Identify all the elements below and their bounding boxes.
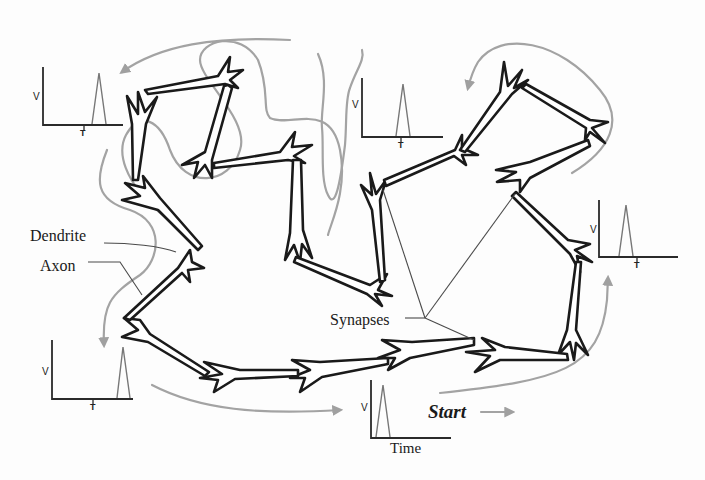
spike-plot-bottom-left-t-label: T	[90, 403, 96, 412]
spike-plot-right-t-label: T	[634, 261, 640, 270]
spike-plot-top-left-v-label: V	[33, 92, 40, 102]
neuron-15	[378, 338, 474, 370]
dendrite-pointer	[104, 243, 176, 252]
neuron-7	[361, 173, 386, 282]
spike-plot-top-center-v-label: V	[352, 100, 359, 110]
neuron-10	[522, 84, 608, 143]
axon-label: Axon	[40, 258, 76, 274]
spike-plot-bottom-left	[52, 340, 133, 399]
spike-plot-top-left-t-label: T	[80, 129, 86, 138]
neuron-20	[122, 176, 202, 250]
spike-plot-top-left	[43, 67, 123, 125]
flow-arrow-inner-squiggle	[318, 50, 363, 199]
start-label: Start	[428, 402, 466, 421]
neuron-18	[122, 318, 209, 376]
neurons	[122, 57, 608, 392]
spike-plot-right	[599, 200, 678, 257]
spike-plot-bottom-left-v-label: V	[42, 367, 49, 377]
neuron-1	[127, 92, 157, 180]
neuron-5	[285, 160, 312, 262]
spike-plot-right-v-label: V	[590, 225, 597, 235]
neuron-14	[466, 338, 568, 372]
synapse-pointer-3	[425, 318, 474, 340]
neuron-16	[290, 358, 388, 392]
neuron-chain-diagram: V T V T V T V T V Dendrite Axon Synapses…	[0, 0, 705, 480]
spike-plot-bottom-center-v-label: V	[361, 403, 368, 413]
neuron-12	[512, 192, 592, 272]
neuron-13	[558, 262, 588, 360]
synapse-pointer-2	[425, 194, 515, 318]
neuron-17	[200, 362, 298, 392]
synapse-pointer-1	[383, 190, 425, 318]
flow-arrow-bottom	[152, 385, 340, 412]
spike-plot-top-center-t-label: T	[398, 141, 404, 150]
spike-plot-top-center	[362, 78, 443, 137]
time-axis-label: Time	[390, 441, 421, 456]
dendrite-label: Dendrite	[30, 228, 86, 244]
neuron-9	[460, 62, 528, 152]
synapses-label: Synapses	[330, 312, 390, 328]
neuron-19	[124, 250, 204, 320]
neuron-11	[496, 140, 590, 192]
